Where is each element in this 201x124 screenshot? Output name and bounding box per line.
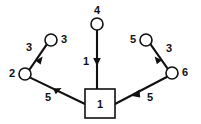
node-2[interactable]: 2 (9, 67, 31, 80)
edge-1-to-2-weight: 5 (45, 91, 51, 103)
node-4-circle[interactable] (91, 18, 103, 30)
edge-5-to-6-weight: 3 (166, 42, 172, 54)
node-4[interactable]: 4 (91, 4, 103, 30)
edge-5-to-6: 3 (150, 42, 172, 69)
edge-6-to-1: 5 (115, 77, 167, 104)
edge-6-to-1-line (115, 77, 167, 104)
edge-4-to-1-weight: 1 (83, 55, 89, 67)
node-5-label: 5 (130, 33, 136, 45)
edge-3-to-2: 3 (26, 41, 47, 70)
node-2-circle[interactable] (19, 68, 31, 80)
edge-1-to-2: 5 (30, 78, 85, 104)
node-1-box[interactable]: 1 (85, 89, 115, 118)
node-5[interactable]: 5 (130, 33, 152, 46)
edge-4-to-1: 1 (83, 30, 101, 89)
node-3-label: 3 (61, 33, 67, 45)
node-2-label: 2 (9, 67, 15, 79)
node-6[interactable]: 6 (166, 66, 188, 79)
node-6-circle[interactable] (166, 67, 178, 79)
edge-4-to-1-arrowhead (93, 58, 101, 66)
node-6-label: 6 (182, 66, 188, 78)
node-4-label: 4 (94, 4, 101, 16)
graph-canvas: 1 3 3 5 5 4 (0, 0, 201, 124)
edge-6-to-1-arrowhead (131, 90, 140, 98)
edge-3-to-2-weight: 3 (26, 41, 32, 53)
node-5-circle[interactable] (140, 34, 152, 46)
graph-diagram: 1 3 3 5 5 4 (0, 0, 201, 124)
edge-6-to-1-weight: 5 (147, 91, 153, 103)
node-3-circle[interactable] (45, 34, 57, 46)
node-1-box-label: 1 (97, 98, 103, 110)
node-3[interactable]: 3 (45, 33, 67, 46)
